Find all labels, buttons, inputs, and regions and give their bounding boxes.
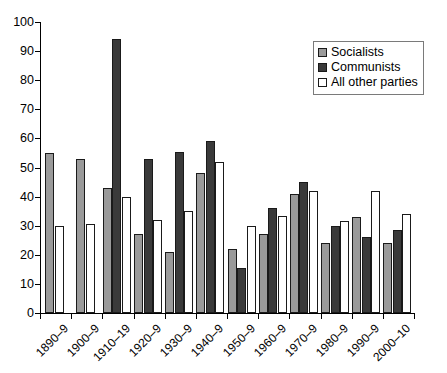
x-axis-tick-mark xyxy=(71,314,72,319)
bar-communists xyxy=(206,141,215,313)
x-axis-tick-label: 1890–9 xyxy=(33,322,70,359)
bar-socialists xyxy=(103,188,112,313)
bar-chart: 0102030405060708090100 1890–91900–91910–… xyxy=(0,0,447,373)
bar-communists xyxy=(237,268,246,313)
bar-allother xyxy=(402,214,411,313)
bar-group xyxy=(102,22,133,313)
bar-socialists xyxy=(321,243,330,313)
bar-allother xyxy=(247,226,256,313)
bar-socialists xyxy=(290,194,299,313)
bar-communists xyxy=(362,237,371,313)
x-axis-tick-mark xyxy=(321,314,322,319)
x-axis-tick-label: 1950–9 xyxy=(220,322,257,359)
bar-allother xyxy=(278,216,287,313)
x-axis-tick-label: 1960–9 xyxy=(251,322,288,359)
bar-group xyxy=(258,22,289,313)
y-axis-tick-label: 40 xyxy=(20,190,34,203)
y-axis-tick-label: 50 xyxy=(20,161,34,174)
bar-communists xyxy=(331,226,340,313)
bar-allother xyxy=(184,211,193,313)
x-axis-tick-mark xyxy=(414,314,415,319)
legend-swatch-icon xyxy=(318,48,327,57)
x-axis-tick-mark xyxy=(383,314,384,319)
chart-legend: SocialistsCommunistsAll other parties xyxy=(313,41,424,95)
bar-communists xyxy=(299,182,308,313)
bar-socialists xyxy=(165,252,174,313)
x-axis-tick-mark xyxy=(134,314,135,319)
bar-communists xyxy=(112,39,121,313)
bar-group xyxy=(71,22,102,313)
bar-group xyxy=(134,22,165,313)
bar-socialists xyxy=(76,159,85,313)
bar-socialists xyxy=(196,173,205,313)
legend-item[interactable]: Socialists xyxy=(318,45,418,60)
bar-group xyxy=(40,22,71,313)
bar-allother xyxy=(86,224,95,313)
bar-group xyxy=(196,22,227,313)
bar-allother xyxy=(340,221,349,313)
y-axis-tick-label: 60 xyxy=(20,132,34,145)
bar-allother xyxy=(309,191,318,313)
y-axis-tick-label: 10 xyxy=(20,278,34,291)
bar-socialists xyxy=(134,234,143,313)
bar-allother xyxy=(371,191,380,313)
y-axis-tick-label: 100 xyxy=(13,16,34,29)
legend-item-label: Socialists xyxy=(331,46,384,59)
x-axis-tick-label: 1920–9 xyxy=(127,322,164,359)
y-axis-tick-label: 80 xyxy=(20,74,34,87)
x-axis-tick-label: 1940–9 xyxy=(189,322,226,359)
bar-socialists xyxy=(352,217,361,313)
x-axis-tick-label: 1930–9 xyxy=(158,322,195,359)
legend-item[interactable]: Communists xyxy=(318,60,418,75)
y-axis-tick-label: 90 xyxy=(20,45,34,58)
legend-item-label: Communists xyxy=(331,61,400,74)
x-axis-tick-mark xyxy=(227,314,228,319)
x-axis-tick-mark xyxy=(40,314,41,319)
legend-item-label: All other parties xyxy=(331,76,418,89)
bar-allother xyxy=(55,226,64,313)
bar-socialists xyxy=(259,234,268,313)
bar-allother xyxy=(122,197,131,313)
y-axis-tick-label: 0 xyxy=(27,307,34,320)
bar-communists xyxy=(144,159,153,313)
y-axis-tick-label: 70 xyxy=(20,103,34,116)
legend-swatch-icon xyxy=(318,63,327,72)
bar-allother xyxy=(153,220,162,313)
bar-socialists xyxy=(45,153,54,313)
bar-communists xyxy=(393,230,402,313)
bar-socialists xyxy=(228,249,237,313)
bar-allother xyxy=(215,162,224,313)
bar-communists xyxy=(268,208,277,313)
legend-item[interactable]: All other parties xyxy=(318,75,418,90)
x-axis-tick-mark xyxy=(196,314,197,319)
legend-swatch-icon xyxy=(318,78,327,87)
y-axis-tick-label: 30 xyxy=(20,219,34,232)
x-axis-tick-mark xyxy=(258,314,259,319)
x-axis-tick-label: 1970–9 xyxy=(283,322,320,359)
x-axis-tick-mark xyxy=(352,314,353,319)
bar-group xyxy=(227,22,258,313)
x-axis-tick-mark xyxy=(165,314,166,319)
bar-group xyxy=(165,22,196,313)
x-axis-tick-mark xyxy=(102,314,103,319)
y-axis-tick-label: 20 xyxy=(20,249,34,262)
x-axis-tick-mark xyxy=(289,314,290,319)
x-axis-tick-label: 1980–9 xyxy=(314,322,351,359)
bar-socialists xyxy=(383,243,392,313)
bar-communists xyxy=(175,152,184,314)
